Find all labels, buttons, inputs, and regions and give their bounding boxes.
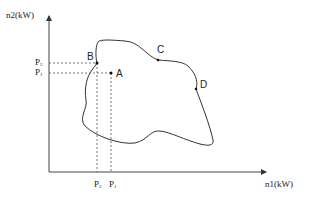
point-c-label: C <box>157 45 164 55</box>
y-tick-p2: P2 <box>35 58 43 67</box>
point-a-dot <box>110 72 113 75</box>
point-d-label: D <box>200 80 207 90</box>
point-a-label: A <box>116 69 123 79</box>
point-b-dot <box>96 62 99 65</box>
diagram-canvas <box>0 0 311 200</box>
point-c-dot <box>157 59 160 62</box>
point-b-label: B <box>87 52 94 62</box>
x-axis-label: n1(kW) <box>265 180 293 189</box>
x-tick-p1: P1 <box>109 180 117 189</box>
x-tick-p2: P2 <box>94 180 102 189</box>
point-d-dot <box>195 88 198 91</box>
operating-region-curve <box>82 40 213 145</box>
y-tick-p1: P1 <box>35 68 43 77</box>
y-axis-label: n2(kW) <box>6 11 34 20</box>
